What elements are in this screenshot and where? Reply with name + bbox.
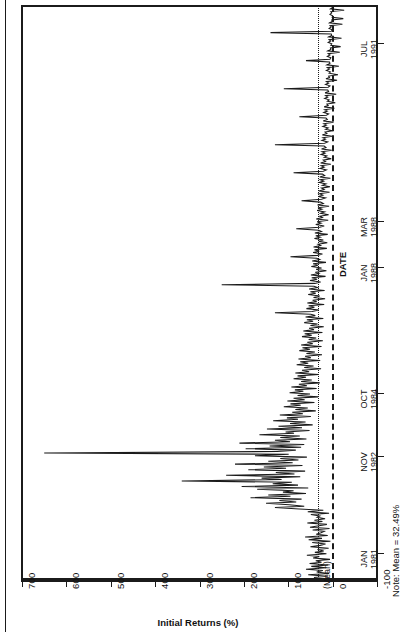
value-axis-title: Initial Returns (%) <box>158 617 239 628</box>
value-tick-label: 400 <box>159 573 170 589</box>
value-tick-label: 300 <box>204 573 215 589</box>
value-tick-label: 0 <box>337 584 348 589</box>
value-tick <box>111 580 112 587</box>
date-year: 1982 <box>369 452 379 472</box>
date-month: JAN <box>359 551 369 568</box>
date-month: NOV <box>359 452 369 472</box>
date-tick-label: MAR1988 <box>359 217 379 237</box>
value-tick-label: 600 <box>70 573 81 589</box>
date-month: JAN <box>359 264 369 281</box>
value-tick-label: 700 <box>26 573 37 589</box>
value-tick-label: 100 <box>292 573 303 589</box>
date-year: 1981 <box>369 549 379 569</box>
value-tick-label: 200 <box>248 573 259 589</box>
date-year: 1991 <box>369 39 379 59</box>
value-tick <box>288 580 289 587</box>
date-month: JUL <box>359 41 369 57</box>
value-tick-label: 500 <box>115 573 126 589</box>
date-tick-label: JUL1991 <box>359 39 379 59</box>
date-year: 1988 <box>369 217 379 237</box>
value-tick <box>22 580 23 587</box>
mean-tick-label: (Mean) <box>322 561 332 589</box>
value-tick <box>66 580 67 587</box>
date-tick-label: OCT1984 <box>359 389 379 409</box>
date-year: 1988 <box>369 263 379 283</box>
date-axis-title: DATE <box>337 252 348 277</box>
date-tick-label: JAN1988 <box>359 263 379 283</box>
value-tick <box>200 580 201 587</box>
figure-note: Note: Mean = 32.49% <box>390 505 401 597</box>
date-year: 1984 <box>369 389 379 409</box>
value-tick <box>155 580 156 587</box>
value-tick <box>333 580 334 587</box>
date-month: OCT <box>359 389 369 408</box>
value-tick <box>244 580 245 587</box>
date-month: MAR <box>359 217 369 237</box>
date-tick-label: NOV1982 <box>359 452 379 472</box>
value-tick <box>377 580 378 587</box>
date-tick-label: JAN1981 <box>359 549 379 569</box>
